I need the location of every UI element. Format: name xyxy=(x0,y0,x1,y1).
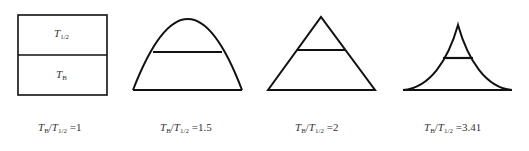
caption-ratio-1-5: TB/T1/2 =1.5 xyxy=(160,121,212,135)
caption-ratio-2: TB/T1/2 =2 xyxy=(295,121,338,135)
caption-ratio-3-41: TB/T1/2 =3.41 xyxy=(424,121,481,135)
caption-ratio-1: TB/T1/2 =1 xyxy=(38,121,81,135)
subscript: 1/2 xyxy=(60,33,69,41)
triangle-shape xyxy=(268,17,375,90)
parabola-shape xyxy=(133,19,242,90)
rect-lower-label: TB xyxy=(56,68,67,82)
rect-upper-label: T1/2 xyxy=(54,27,69,41)
subscript: B xyxy=(62,74,67,82)
concave-peak-shape xyxy=(403,25,512,90)
